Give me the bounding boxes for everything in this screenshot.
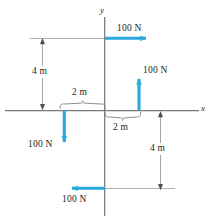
- force-label-right-vertical-up: 100 N: [143, 66, 168, 76]
- force-label-top-right-horizontal: 100 N: [117, 24, 142, 34]
- dimension-label-left-4m: 4 m: [31, 66, 48, 78]
- x-axis-label: x: [201, 104, 205, 113]
- dimension-arrowhead-right-top: [158, 111, 163, 117]
- dimension-label-upper-2m: 2 m: [72, 88, 87, 98]
- force-diagram: y x 100 N 100 N 100 N 100 N 4 m 2 m 2 m …: [0, 0, 212, 220]
- diagram-canvas: [0, 0, 212, 220]
- dimension-arrowhead-right-bottom: [158, 184, 163, 190]
- force-label-left-vertical-down: 100 N: [28, 140, 53, 150]
- dimension-brace-lower-2m: [105, 112, 141, 120]
- force-label-bottom-horizontal: 100 N: [62, 195, 87, 205]
- dimension-label-lower-2m: 2 m: [113, 123, 128, 133]
- dimension-brace-upper-2m: [60, 101, 105, 109]
- dimension-arrowhead-left-bottom: [40, 104, 45, 110]
- dimension-label-right-4m: 4 m: [149, 143, 166, 155]
- y-axis-label: y: [100, 6, 104, 15]
